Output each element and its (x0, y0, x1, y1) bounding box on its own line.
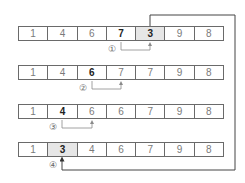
cell: 8 (195, 27, 223, 40)
cell-key: 3 (136, 27, 165, 40)
cell: 6 (107, 143, 136, 156)
cell: 4 (48, 66, 77, 79)
step-label-3: ③ (49, 123, 57, 132)
cell: 8 (195, 105, 223, 118)
cell: 7 (136, 105, 165, 118)
array-row-3: 1 4 6 6 7 9 8 (18, 104, 224, 119)
step1-arrow (121, 42, 150, 50)
array-row-4: 1 3 4 6 7 9 8 (18, 142, 224, 157)
cell: 1 (19, 143, 48, 156)
cell: 7 (136, 143, 165, 156)
cell: 6 (78, 105, 107, 118)
cell: 6 (107, 105, 136, 118)
cell: 9 (165, 105, 194, 118)
cell: 7 (107, 27, 136, 40)
cell: 9 (165, 66, 194, 79)
step-label-2: ② (79, 84, 87, 93)
cell-key-inserted: 3 (48, 143, 77, 156)
step2-arrow (92, 81, 121, 89)
step-label-4: ④ (49, 161, 57, 170)
cell: 1 (19, 105, 48, 118)
array-row-2: 1 4 6 7 7 9 8 (18, 65, 224, 80)
cell: 4 (48, 27, 77, 40)
cell: 1 (19, 66, 48, 79)
cell: 7 (107, 66, 136, 79)
cell: 8 (195, 66, 223, 79)
array-row-1: 1 4 6 7 3 9 8 (18, 26, 224, 41)
cell: 4 (48, 105, 77, 118)
cell: 6 (78, 27, 107, 40)
step-label-1: ① (108, 45, 116, 54)
cell: 6 (78, 66, 107, 79)
cell: 4 (78, 143, 107, 156)
cell: 9 (165, 143, 194, 156)
step3-arrow (62, 120, 92, 128)
cell: 7 (136, 66, 165, 79)
insertion-sort-diagram: 1 4 6 7 3 9 8 ① 1 4 6 7 7 9 8 ② 1 4 6 6 … (0, 0, 245, 183)
cell: 9 (165, 27, 194, 40)
cell: 8 (195, 143, 223, 156)
cell: 1 (19, 27, 48, 40)
